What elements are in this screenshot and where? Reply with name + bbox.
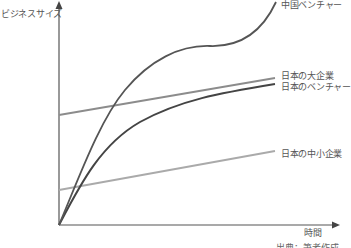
y-axis-arrow-icon	[56, 1, 63, 9]
legend-label-japan-large: 日本の大企業	[281, 71, 333, 81]
series-japan-venture	[59, 84, 275, 225]
legend-label-china-venture: 中国ベンチャー	[281, 0, 342, 10]
legend-label-japan-venture: 日本のベンチャー	[281, 82, 351, 92]
x-axis-arrow-icon	[332, 222, 340, 229]
source-note: 出典：筆者作成	[276, 243, 339, 248]
x-axis-label: 時間	[304, 228, 321, 238]
series-china-venture	[59, 2, 276, 225]
y-axis-label: ビジネスサイズ	[1, 9, 62, 19]
legend-label-japan-sme: 日本の中小企業	[281, 149, 342, 159]
series-japan-sme	[59, 151, 275, 190]
